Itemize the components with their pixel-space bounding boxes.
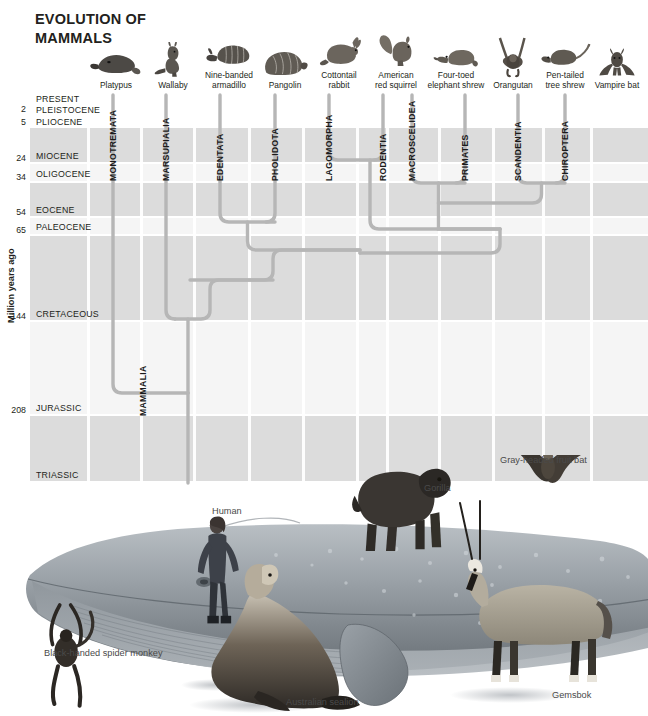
header-animal-label: Platypus xyxy=(85,80,147,90)
header-animal-squirrel: American red squirrel xyxy=(365,28,427,91)
header-animal-label: Four-toed elephant shrew xyxy=(425,70,487,91)
branch-monotremata xyxy=(113,95,188,393)
epoch-label-oligocene: OLIGOCENE xyxy=(36,169,91,179)
epoch-tick-144: 144 xyxy=(0,311,26,321)
vampire-bat-icon xyxy=(586,38,648,78)
epoch-tick-2: 2 xyxy=(0,104,26,114)
header-animal-pangolin: Pangolin xyxy=(254,38,316,90)
branch-edentata-pholidota-stem xyxy=(248,222,361,250)
epoch-label-paleocene: PALEOCENE xyxy=(36,222,91,232)
whale-scene-svg xyxy=(0,455,648,716)
wallaby-icon xyxy=(142,38,204,78)
epoch-label-pliocene: PLIOCENE xyxy=(36,117,83,127)
branch-scandentia xyxy=(518,95,565,183)
fruit-bat-label: Gray-headed fruit bat xyxy=(500,455,587,465)
branch-archonta-node xyxy=(439,203,501,229)
armadillo-icon xyxy=(198,28,260,68)
rabbit-icon xyxy=(308,28,370,68)
branch-lagomorpha xyxy=(329,95,383,160)
branch-edentata xyxy=(220,95,275,222)
header-animal-rabbit: Cottontail rabbit xyxy=(308,28,370,91)
epoch-tick-5: 5 xyxy=(0,117,26,127)
y-axis-title: Million years ago xyxy=(6,203,16,323)
epoch-tick-65: 65 xyxy=(0,225,26,235)
epoch-tick-24: 24 xyxy=(0,153,26,163)
branch-glires-stem xyxy=(370,160,500,229)
pangolin-icon xyxy=(254,38,316,78)
header-animal-label: American red squirrel xyxy=(365,70,427,91)
order-label-macroscelidea: MACROSCELIDEA xyxy=(407,101,417,181)
header-animal-wallaby: Wallaby xyxy=(142,38,204,90)
phylogenetic-tree xyxy=(30,93,648,483)
sealion-label: Australian sealion xyxy=(286,697,359,707)
header-animal-label: Nine-banded armadillo xyxy=(198,70,260,91)
branch-scand-chiro-stem xyxy=(439,183,542,203)
order-label-pholidota: PHOLIDOTA xyxy=(270,128,280,181)
header-animal-vampire-bat: Vampire bat xyxy=(586,38,648,90)
branch-macroscelidea xyxy=(412,95,465,183)
header-animal-elephant-shrew: Four-toed elephant shrew xyxy=(425,28,487,91)
platypus-icon xyxy=(85,38,147,78)
elephant-shrew-icon xyxy=(425,28,487,68)
header-animal-label: Cottontail rabbit xyxy=(308,70,370,91)
branch-archonta-stem xyxy=(360,229,500,253)
whale-pupil xyxy=(200,580,208,585)
order-label-chiroptera: CHIROPTERA xyxy=(560,121,570,181)
order-label-monotremata: MONOTREMATA xyxy=(108,110,118,181)
order-label-primates: PRIMATES xyxy=(460,134,470,181)
root-clade-label: MAMMALIA xyxy=(138,365,148,416)
scale-comparison-illustration: HumanGorillaGray-headed fruit batBlack-h… xyxy=(0,455,648,716)
gorilla-label: Gorilla xyxy=(424,483,451,493)
order-label-lagomorpha: LAGOMORPHA xyxy=(324,114,334,181)
epoch-tick-208: 208 xyxy=(0,405,26,415)
epoch-label-jurassic: JURASSIC xyxy=(36,403,82,413)
order-label-marsupialia: MARSUPIALIA xyxy=(161,117,171,181)
header-animal-armadillo: Nine-banded armadillo xyxy=(198,28,260,91)
branch-placentalia-backbone xyxy=(190,250,360,280)
branch-theria-stem xyxy=(175,280,273,319)
squirrel-icon xyxy=(365,28,427,68)
header-animal-platypus: Platypus xyxy=(85,38,147,90)
gemsbok-label: Gemsbok xyxy=(552,690,591,700)
epoch-label-present: PRESENT xyxy=(36,94,79,104)
evolution-timeline-chart: MONOTREMATAMARSUPIALIAEDENTATAPHOLIDOTAL… xyxy=(30,93,648,483)
epoch-label-miocene: MIOCENE xyxy=(36,151,79,161)
order-label-scandentia: SCANDENTIA xyxy=(513,121,523,181)
epoch-label-cretaceous: CRETACEOUS xyxy=(36,309,99,319)
header-animal-label: Vampire bat xyxy=(586,80,648,90)
header-animal-strip: Platypus Wallaby Nine-banded armadillo P… xyxy=(80,14,648,90)
epoch-label-eocene: EOCENE xyxy=(36,205,75,215)
order-label-edentata: EDENTATA xyxy=(215,133,225,181)
human-label: Human xyxy=(212,506,242,516)
epoch-label-pleistocene: PLEISTOCENE xyxy=(36,105,100,115)
epoch-tick-54: 54 xyxy=(0,207,26,217)
spider-monkey-label: Black-handed spider monkey xyxy=(44,648,162,658)
header-animal-label: Pangolin xyxy=(254,80,316,90)
order-label-rodentia: RODENTIA xyxy=(378,133,388,181)
header-animal-label: Wallaby xyxy=(142,80,204,90)
epoch-tick-34: 34 xyxy=(0,172,26,182)
